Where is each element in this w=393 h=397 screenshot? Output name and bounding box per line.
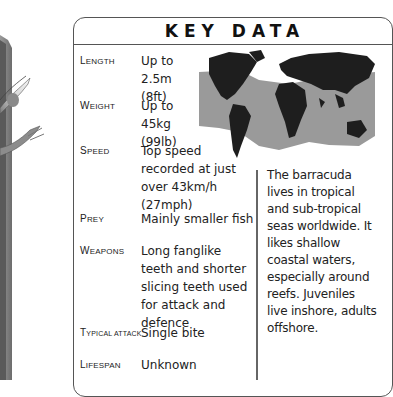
fact-label: Weapons [80,245,124,256]
fact-label: Length [80,55,115,66]
fact-label: Lifespan [80,359,121,370]
fact-value: Mainly smaller fish [141,210,261,228]
fact-value: Long fanglike teeth and shorter slicing … [141,242,253,332]
barracuda-illustration [0,0,70,380]
fact-value: Single bite [141,324,261,342]
fact-label: Typical attack [80,327,142,338]
fact-label: Speed [80,145,109,156]
column-divider [256,170,258,380]
fact-value: Unknown [141,356,261,374]
distribution-map [199,50,375,162]
habitat-description: The barracuda lives in tropical and sub-… [267,167,377,337]
fact-label: Weight [80,100,115,111]
fact-label: Prey [80,213,104,224]
key-data-title: KEY DATA [73,17,393,45]
